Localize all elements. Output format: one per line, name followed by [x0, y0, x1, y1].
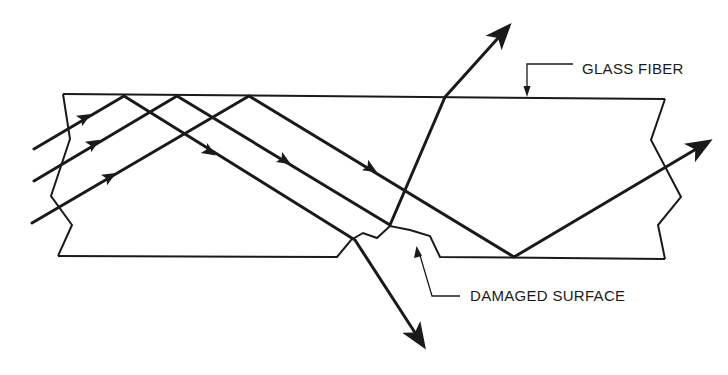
- fiber-bottom-edge: [58, 226, 665, 259]
- ray-transmitted-through-damage: [34, 96, 423, 345]
- fiber-left-end: [51, 94, 72, 256]
- damaged-surface-label: DAMAGED SURFACE: [470, 287, 625, 304]
- damaged-surface-leader: [414, 246, 460, 296]
- fiber-top-edge: [63, 94, 665, 99]
- fiber-right-end: [651, 99, 681, 259]
- glass-fiber-diagram: [0, 0, 728, 375]
- fiber-outline: [51, 94, 681, 259]
- ray-exiting-right: [32, 96, 708, 257]
- ray-escaping-top: [34, 27, 508, 225]
- glass-fiber-leader: [524, 64, 574, 97]
- glass-fiber-label: GLASS FIBER: [582, 60, 684, 77]
